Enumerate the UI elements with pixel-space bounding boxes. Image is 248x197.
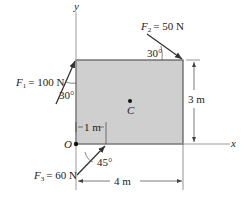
f1-angle-arc: [66, 82, 76, 83]
f3-label: F3= 60 N: [33, 169, 77, 183]
f1-angle-label: 30°: [59, 89, 74, 101]
y-axis-label: y: [73, 0, 79, 12]
dim-4m-label: 4 m: [114, 175, 131, 187]
f2-angle-label: 30°: [147, 47, 162, 59]
origin-label: O: [64, 138, 72, 150]
dim-1m-label: 1 m: [84, 121, 101, 133]
f3-angle-label: 45°: [97, 156, 112, 168]
f2-label: F2= 50 N: [140, 20, 184, 34]
f1-label: F1= 100 N: [15, 76, 64, 90]
force-diagram: y x O C F1= 100 N 30° F2= 50 N 30° F3= 6…: [0, 0, 248, 197]
centroid-point: [128, 99, 132, 103]
origin-point: [74, 142, 78, 146]
x-axis-label: x: [230, 137, 236, 149]
centroid-label: C: [127, 104, 135, 116]
dim-3m-label: 3 m: [188, 93, 205, 105]
